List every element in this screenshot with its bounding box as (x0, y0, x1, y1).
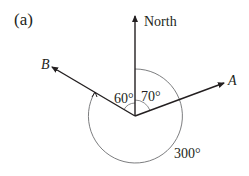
reflex-angle-label: 300° (174, 146, 201, 161)
point-b-label: B (41, 57, 50, 72)
angle-70-label: 70° (141, 89, 161, 104)
point-a-label: A (227, 73, 237, 88)
angle-60-label: 60° (114, 91, 134, 106)
figure-label: (a) (14, 10, 33, 29)
north-label: North (144, 14, 177, 29)
bearing-diagram: (a) North A B 60° 70° 300° (0, 0, 249, 176)
